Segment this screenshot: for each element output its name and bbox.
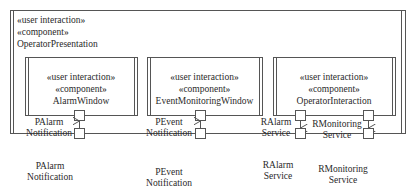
outer-port-rmonitoring <box>364 129 374 139</box>
port-label-line: Service <box>258 128 294 139</box>
port-label-line: Notification <box>22 172 78 183</box>
port-label-line: PAlarm <box>22 161 78 172</box>
component-name: AlarmWindow <box>25 95 137 107</box>
outer-port-pevent <box>196 129 206 139</box>
port-label-line: PEvent <box>144 167 194 178</box>
container-label: «user interaction» «component» OperatorP… <box>17 14 98 50</box>
port-label-line: RAlarm <box>260 160 296 171</box>
port-label-line: Service <box>312 130 362 141</box>
port-event-monitoring-window <box>196 111 206 121</box>
port-label-line: Service <box>316 175 370 186</box>
outer-port-label-rmonitoring: RMonitoring Service <box>316 164 370 186</box>
container-stereotype-component: «component» <box>17 26 98 38</box>
port-operator-interaction-rmonitoring <box>364 111 374 121</box>
outer-port-palarm <box>75 129 85 139</box>
event-monitoring-window-label: «user interaction» «component» EventMoni… <box>147 71 262 107</box>
stereotype: «user interaction» <box>273 71 395 83</box>
port-label-line: PAlarm <box>24 117 74 128</box>
port-alarm-window <box>75 111 85 121</box>
outer-port-label-pevent: PEvent Notification <box>144 167 194 189</box>
port-label-line: Notification <box>144 128 194 139</box>
outer-port-label-ralarm: RAlarm Service <box>260 160 296 182</box>
port-label-line: Service <box>260 171 296 182</box>
outer-port-ralarm <box>296 129 306 139</box>
stereotype: «component» <box>273 83 395 95</box>
port-label-line: PEvent <box>144 117 194 128</box>
stereotype: «component» <box>25 83 137 95</box>
port-operator-interaction-ralarm <box>296 111 306 121</box>
stereotype: «user interaction» <box>147 71 262 83</box>
inner-port-label-pevent: PEvent Notification <box>144 117 194 139</box>
container-stereotype-user-interaction: «user interaction» <box>17 14 98 26</box>
inner-port-label-palarm: PAlarm Notification <box>24 117 74 139</box>
stereotype: «component» <box>147 83 262 95</box>
component-name: OperatorInteraction <box>273 95 395 107</box>
stereotype: «user interaction» <box>25 71 137 83</box>
component-name: EventMonitoringWindow <box>147 95 262 107</box>
port-label-line: RMonitoring <box>316 164 370 175</box>
alarm-window-label: «user interaction» «component» AlarmWind… <box>25 71 137 107</box>
container-name: OperatorPresentation <box>17 38 98 50</box>
operator-interaction-label: «user interaction» «component» OperatorI… <box>273 71 395 107</box>
port-label-line: Notification <box>24 128 74 139</box>
port-label-line: RAlarm <box>258 117 294 128</box>
inner-port-label-rmonitoring: RMonitoring Service <box>312 119 362 141</box>
port-label-line: Notification <box>144 178 194 189</box>
outer-port-label-palarm: PAlarm Notification <box>22 161 78 183</box>
inner-port-label-ralarm: RAlarm Service <box>258 117 294 139</box>
port-label-line: RMonitoring <box>312 119 362 130</box>
